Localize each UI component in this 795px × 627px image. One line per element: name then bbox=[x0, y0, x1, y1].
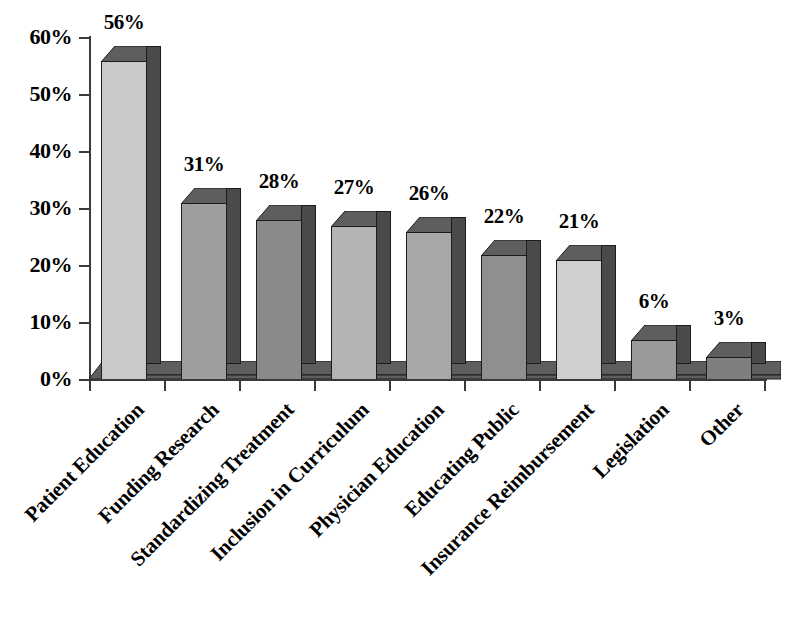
bar-value-label: 3% bbox=[691, 308, 767, 329]
bar-value-label: 22% bbox=[466, 206, 542, 227]
bar-side-face bbox=[676, 325, 691, 364]
bar-front-face bbox=[406, 232, 452, 380]
bar-value-label: 27% bbox=[316, 177, 392, 198]
bar-physician-education bbox=[406, 217, 466, 380]
bar-side-face bbox=[376, 211, 391, 364]
x-axis-tick bbox=[764, 381, 766, 391]
y-axis-tick bbox=[79, 151, 90, 153]
bar-front-face bbox=[706, 357, 752, 380]
bar-side-face bbox=[301, 205, 316, 364]
y-axis-label-60: 60% bbox=[0, 26, 72, 48]
bar-insurance-reimbursement bbox=[556, 245, 616, 380]
bar-side-face bbox=[146, 46, 161, 364]
y-axis-tick bbox=[79, 208, 90, 210]
x-axis-tick bbox=[239, 381, 241, 391]
bar-front-face bbox=[331, 226, 377, 380]
x-axis-tick bbox=[89, 381, 91, 391]
bar-legislation bbox=[631, 325, 691, 380]
x-axis-tick bbox=[314, 381, 316, 391]
bar-front-face bbox=[256, 220, 302, 380]
x-axis-tick bbox=[164, 381, 166, 391]
x-axis-category-label-legislation: Legislation bbox=[589, 399, 672, 482]
bar-value-label: 56% bbox=[86, 12, 162, 33]
y-axis-label-0: 0% bbox=[0, 368, 72, 390]
bar-chart: 60% 50% 40% 30% 20% 10% 0% 56% 31% bbox=[0, 0, 795, 627]
y-axis-tick bbox=[79, 322, 90, 324]
bar-value-label: 28% bbox=[241, 171, 317, 192]
y-axis-label-50: 50% bbox=[0, 83, 72, 105]
bar-front-face bbox=[181, 203, 227, 380]
bar-value-label: 21% bbox=[541, 211, 617, 232]
y-axis-label-40: 40% bbox=[0, 140, 72, 162]
bar-side-face bbox=[526, 240, 541, 364]
x-axis-category-label-other: Other bbox=[696, 399, 748, 451]
bar-value-label: 6% bbox=[616, 291, 692, 312]
y-axis-label-10: 10% bbox=[0, 311, 72, 333]
x-axis-category-label-physician-education: Physician Education bbox=[306, 399, 448, 541]
bar-front-face bbox=[101, 61, 147, 380]
bar-inclusion-in-curriculum bbox=[331, 211, 391, 380]
bar-side-face bbox=[601, 245, 616, 364]
bar-patient-education bbox=[101, 46, 161, 380]
y-axis-tick bbox=[79, 37, 90, 39]
x-axis-line bbox=[89, 379, 767, 381]
x-axis-tick bbox=[689, 381, 691, 391]
bar-value-label: 31% bbox=[166, 154, 242, 175]
y-axis-tick bbox=[79, 265, 90, 267]
bar-side-face bbox=[451, 217, 466, 364]
bar-front-face bbox=[631, 340, 677, 380]
y-axis-label-20: 20% bbox=[0, 254, 72, 276]
x-axis-tick bbox=[389, 381, 391, 391]
x-axis-tick bbox=[464, 381, 466, 391]
bar-standardizing-treatment bbox=[256, 205, 316, 380]
bar-funding-research bbox=[181, 188, 241, 380]
bar-educating-public bbox=[481, 240, 541, 380]
bar-front-face bbox=[481, 255, 527, 380]
bar-side-face bbox=[751, 342, 766, 364]
bar-side-face bbox=[226, 188, 241, 364]
bar-other bbox=[706, 342, 766, 380]
x-axis-tick bbox=[539, 381, 541, 391]
x-axis-tick bbox=[614, 381, 616, 391]
y-axis-tick bbox=[79, 94, 90, 96]
bar-front-face bbox=[556, 260, 602, 380]
y-axis-label-30: 30% bbox=[0, 197, 72, 219]
bar-value-label: 26% bbox=[391, 183, 467, 204]
